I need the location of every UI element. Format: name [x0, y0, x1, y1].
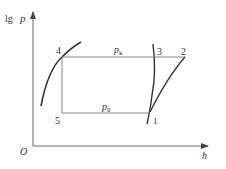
condensing-pressure-label: pk	[113, 44, 123, 57]
evaporating-pressure-label: p0	[101, 101, 111, 114]
point-label-2: 2	[181, 46, 186, 57]
origin-label: O	[20, 146, 27, 157]
y-axis-label-prefix: lg	[5, 13, 13, 24]
x-axis-label: h	[202, 150, 207, 161]
point-label-4: 4	[56, 45, 61, 56]
point-label-1: 1	[153, 116, 158, 126]
y-axis-label-var: p	[19, 12, 26, 24]
point-label-5: 5	[55, 115, 60, 126]
compression-line	[150, 57, 185, 112]
point-label-3: 3	[157, 46, 162, 57]
saturated-liquid-curve	[41, 42, 81, 106]
lgp-h-diagram: lg p h O 4 3 2 5 1 pk p0	[0, 0, 226, 169]
